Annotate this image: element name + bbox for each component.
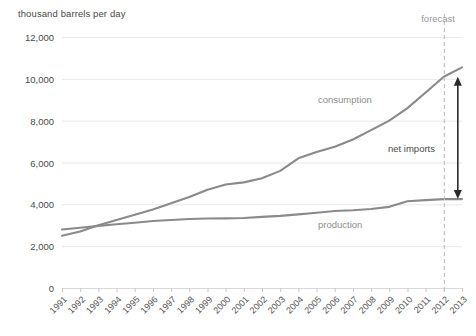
x-tick-label: 1994 bbox=[102, 294, 123, 315]
y-tick-label: 0 bbox=[49, 283, 54, 294]
x-tick-label: 2001 bbox=[229, 294, 250, 315]
x-tick-label: 1998 bbox=[175, 294, 196, 315]
x-tick-label: 1991 bbox=[48, 294, 69, 315]
x-tick-label: 1993 bbox=[84, 294, 105, 315]
x-tick-label: 2002 bbox=[248, 294, 269, 315]
y-tick-label: 2,000 bbox=[30, 241, 54, 252]
line-chart: 02,0004,0006,0008,00010,00012,000 199119… bbox=[0, 0, 476, 336]
x-tick-label: 2011 bbox=[412, 294, 433, 315]
y-tick-labels-group: 02,0004,0006,0008,00010,00012,000 bbox=[25, 32, 54, 294]
y-tick-label: 6,000 bbox=[30, 158, 54, 169]
x-tick-label: 2013 bbox=[448, 294, 469, 315]
x-tick-label: 2010 bbox=[393, 294, 414, 315]
x-tick-labels-group: 1991199219931994199519961997199819992000… bbox=[48, 294, 469, 315]
series-label-consumption: consumption bbox=[318, 94, 372, 105]
y-tick-label: 10,000 bbox=[25, 74, 54, 85]
x-tick-label: 1999 bbox=[193, 294, 214, 315]
x-tick-label: 1995 bbox=[120, 294, 141, 315]
net-imports-arrow bbox=[454, 77, 462, 199]
forecast-label: forecast bbox=[421, 13, 455, 24]
y-tick-label: 4,000 bbox=[30, 199, 54, 210]
x-tick-label: 2000 bbox=[211, 294, 232, 315]
x-tick-label: 2008 bbox=[357, 294, 378, 315]
x-tick-label: 1996 bbox=[139, 294, 160, 315]
x-tick-label: 2006 bbox=[320, 294, 341, 315]
x-tick-label: 2005 bbox=[302, 294, 323, 315]
series-label-production: production bbox=[318, 219, 362, 230]
chart-container: thousand barrels per day 02,0004,0006,00… bbox=[0, 0, 476, 336]
x-tick-label: 2003 bbox=[266, 294, 287, 315]
y-tick-label: 8,000 bbox=[30, 116, 54, 127]
gridlines-group bbox=[62, 38, 462, 289]
x-tick-label: 2012 bbox=[429, 294, 450, 315]
x-tick-label: 2004 bbox=[284, 294, 305, 315]
x-tick-label: 2009 bbox=[375, 294, 396, 315]
y-tick-label: 12,000 bbox=[25, 32, 54, 43]
x-tick-label: 2007 bbox=[339, 294, 360, 315]
series-line-production bbox=[62, 199, 462, 229]
y-axis-title: thousand barrels per day bbox=[18, 8, 126, 19]
x-tick-label: 1997 bbox=[157, 294, 178, 315]
x-tick-label: 1992 bbox=[66, 294, 87, 315]
net-imports-label: net imports bbox=[388, 143, 435, 154]
